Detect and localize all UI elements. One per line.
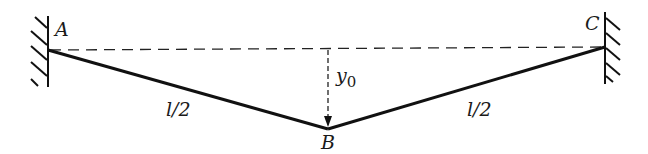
length-label-AB: l/2 (166, 100, 191, 119)
length-label-BC: l/2 (467, 100, 492, 119)
reference-dashed-line (50, 47, 603, 50)
displacement-symbol: y (336, 64, 347, 86)
displacement-subscript: 0 (347, 73, 357, 91)
left-support-wall (31, 16, 48, 87)
displacement-label: y0 (336, 66, 356, 85)
right-support-wall (605, 12, 620, 84)
string-displacement-diagram: A C B l/2 l/2 y0 (0, 0, 648, 154)
point-label-C: C (585, 14, 600, 33)
point-label-B: B (321, 133, 335, 152)
point-label-A: A (55, 20, 69, 39)
displacement-arrow (324, 50, 332, 127)
